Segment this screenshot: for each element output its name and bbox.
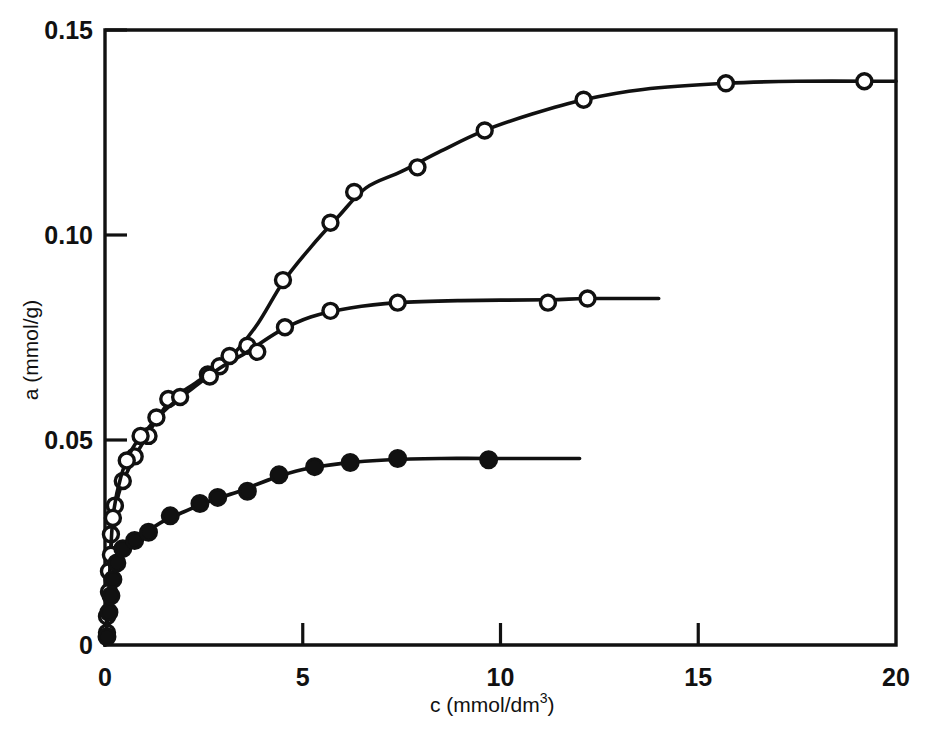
data-point [718,76,733,91]
series-lower-isotherm [99,450,580,645]
data-point [347,184,362,199]
series-middle-isotherm [99,291,658,645]
data-point [857,74,872,89]
y-axis-tick-labels: 00.050.100.15 [44,16,93,659]
y-tick-label-3: 0.15 [44,16,93,44]
data-point [323,215,338,230]
data-point [390,295,405,310]
x-tick-label-4: 20 [882,663,910,691]
data-point [149,410,164,425]
data-point [103,588,119,604]
x-tick-label-1: 5 [296,663,310,691]
adsorption-isotherm-chart: 00.050.100.15 05101520 a (mmol/g) c (mmo… [0,0,932,736]
x-tick-label-2: 10 [487,663,515,691]
y-tick-label-0: 0 [79,631,93,659]
data-point [141,524,157,540]
x-axis-tick-labels: 05101520 [98,663,910,691]
x-axis-title-text: c (mmol/dm3) [430,690,554,716]
data-point [162,508,178,524]
data-point [275,273,290,288]
y-axis-ticks [105,30,127,440]
x-axis-title: c (mmol/dm3) [430,690,554,716]
series-upper-isotherm [99,74,896,645]
series-line-lower-isotherm [105,458,580,645]
x-tick-label-3: 15 [684,663,712,691]
frame-border [105,30,896,645]
data-point [202,369,217,384]
series-group [99,74,896,645]
data-point [323,303,338,318]
x-axis-title-superscript: 3 [540,690,548,706]
series-line-middle-isotherm [105,298,659,645]
data-point [105,510,120,525]
data-point [101,604,117,620]
data-point [192,496,208,512]
data-point [222,348,237,363]
data-point [307,459,323,475]
data-point [342,455,358,471]
data-point [239,483,255,499]
data-point [481,452,497,468]
data-point [133,428,148,443]
plot-frame [105,30,896,645]
data-point [173,389,188,404]
data-point [99,629,115,645]
x-tick-label-0: 0 [98,663,112,691]
data-point [119,453,134,468]
y-axis-title: a (mmol/g) [19,300,42,400]
data-point [410,160,425,175]
y-tick-label-2: 0.10 [44,221,93,249]
data-point [105,571,121,587]
y-axis-title-text: a (mmol/g) [19,300,42,400]
data-point [277,320,292,335]
x-axis-title-base: c (mmol/dm [430,693,540,716]
data-point [580,291,595,306]
y-tick-label-1: 0.05 [44,426,93,454]
data-point [390,450,406,466]
chart-figure: 00.050.100.15 05101520 a (mmol/g) c (mmo… [0,0,932,736]
data-point [576,92,591,107]
x-axis-title-tail: ) [547,693,554,716]
data-point [540,295,555,310]
x-axis-ticks [303,623,699,645]
data-point [477,123,492,138]
data-point [271,467,287,483]
data-point [250,344,265,359]
data-point [210,489,226,505]
